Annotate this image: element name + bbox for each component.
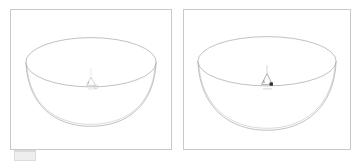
taskbar-tab[interactable]: [14, 152, 36, 161]
bowl-rim-ellipse: [198, 37, 336, 86]
origin-axis-label: A: [263, 80, 265, 84]
right-origin-marker[interactable]: A: [262, 65, 273, 89]
left-viewport[interactable]: A: [10, 9, 172, 150]
app-root: A A: [0, 0, 361, 162]
bowl-rim-ellipse: [26, 38, 156, 87]
right-viewport[interactable]: A: [183, 9, 351, 150]
origin-axis-label: A: [88, 81, 90, 85]
origin-cursor-square-icon[interactable]: [270, 82, 273, 85]
left-viewport-canvas[interactable]: A: [11, 10, 171, 149]
left-bowl-drawing: A: [11, 10, 171, 149]
left-origin-marker[interactable]: A: [87, 68, 98, 89]
right-bowl-drawing: A: [184, 10, 350, 149]
right-viewport-canvas[interactable]: A: [184, 10, 350, 149]
